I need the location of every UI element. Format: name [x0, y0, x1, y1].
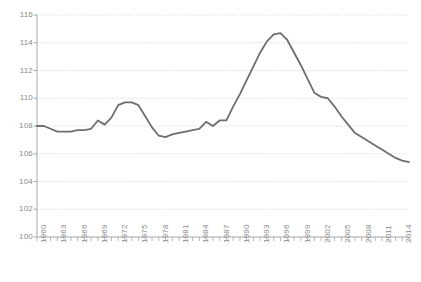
x-tick-label: 2011 [385, 225, 393, 243]
x-tick-label: 1972 [121, 224, 129, 243]
x-axis-tick-labels: 1960196319661969197219751978198119841987… [0, 0, 421, 282]
x-tick-label: 1981 [182, 224, 190, 243]
x-tick-label: 1975 [141, 224, 149, 243]
x-tick-label: 2002 [324, 224, 332, 243]
x-tick-label: 1963 [60, 224, 68, 243]
x-tick-label: 1966 [81, 224, 89, 243]
x-tick-label: 1996 [283, 224, 291, 243]
x-tick-label: 2008 [365, 224, 373, 243]
x-tick-label: 1990 [243, 224, 251, 243]
x-tick-label: 1960 [40, 224, 48, 243]
x-tick-label: 1969 [101, 224, 109, 243]
x-tick-label: 1987 [223, 224, 231, 243]
x-tick-label: 1978 [162, 224, 170, 243]
x-tick-label: 2014 [405, 224, 413, 243]
x-tick-label: 1984 [202, 224, 210, 243]
x-tick-label: 1993 [263, 224, 271, 243]
x-tick-label: 1999 [304, 224, 312, 243]
x-tick-label: 2005 [344, 224, 352, 243]
line-chart: 116114112110108106104102100 196019631966… [0, 0, 421, 282]
